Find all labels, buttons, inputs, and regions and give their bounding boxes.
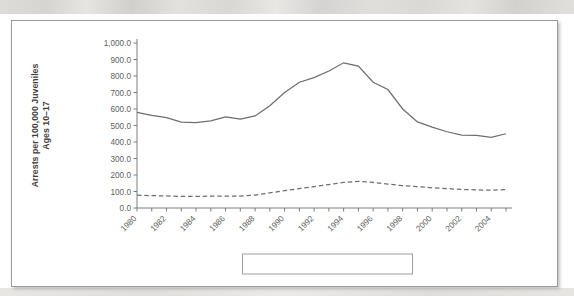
chart-legend[interactable] <box>243 254 413 274</box>
y-tick-label: 0.0 <box>120 204 132 213</box>
y-axis-title: Arrests per 100,000 JuvenilesAges 10–17 <box>30 64 51 188</box>
x-tick-label: 2002 <box>444 214 464 234</box>
x-tick-label: 1990 <box>267 214 287 234</box>
y-tick-label: 900.0 <box>111 56 132 65</box>
y-axis-ticks: 0.0100.0200.0300.0400.0500.0600.0700.080… <box>104 39 137 213</box>
y-tick-label: 400.0 <box>111 138 132 147</box>
y-axis-title-line: Ages 10–17 <box>41 101 51 150</box>
series-line-male <box>137 63 506 138</box>
figure-frame: Arrests per 100,000 JuvenilesAges 10–17 … <box>11 20 558 287</box>
x-axis-ticks: 1980198219841986198819901992199419961998… <box>119 208 506 233</box>
chart-canvas: Arrests per 100,000 JuvenilesAges 10–17 … <box>12 21 559 288</box>
y-tick-label: 100.0 <box>111 188 132 197</box>
x-tick-label: 1994 <box>326 214 346 234</box>
y-tick-label: 800.0 <box>111 72 132 81</box>
y-tick-label: 600.0 <box>111 105 132 114</box>
line-chart: Arrests per 100,000 JuvenilesAges 10–17 … <box>12 21 559 288</box>
x-tick-label: 1986 <box>208 214 228 234</box>
scan-artifact-top <box>0 0 574 14</box>
x-tick-label: 1996 <box>355 214 375 234</box>
y-tick-label: 700.0 <box>111 89 132 98</box>
y-tick-label: 200.0 <box>111 171 132 180</box>
x-tick-label: 1992 <box>296 214 316 234</box>
series-line-female <box>137 181 506 196</box>
y-axis-title-line: Arrests per 100,000 Juveniles <box>30 64 40 188</box>
axis-lines <box>137 39 512 208</box>
x-tick-label: 1988 <box>237 214 257 234</box>
data-series <box>137 63 506 197</box>
legend-border <box>243 254 413 274</box>
y-tick-label: 500.0 <box>111 122 132 131</box>
x-tick-label: 1998 <box>385 214 405 234</box>
scan-artifact-bottom <box>0 288 574 296</box>
x-tick-label: 1984 <box>178 214 198 234</box>
y-tick-label: 300.0 <box>111 155 132 164</box>
y-tick-label: 1,000.0 <box>104 39 132 48</box>
x-tick-label: 2004 <box>473 214 493 234</box>
x-tick-label: 1982 <box>149 214 169 234</box>
x-tick-label: 1980 <box>119 214 139 234</box>
x-tick-label: 2000 <box>414 214 434 234</box>
